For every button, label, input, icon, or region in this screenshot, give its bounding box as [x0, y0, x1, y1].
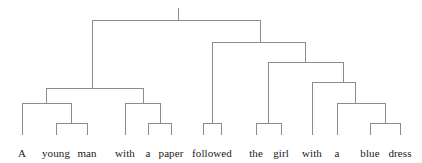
pp-with-dress-bracket	[312, 82, 355, 135]
np-blue-dress-bracket	[337, 103, 385, 135]
np-subject-bracket	[46, 88, 143, 103]
pp-with-paper-bracket	[125, 103, 160, 135]
followed-stub-bracket	[203, 123, 221, 135]
leaf-word-w6[interactable]: paper	[159, 147, 184, 159]
leaf-word-w1[interactable]: A	[18, 147, 26, 159]
leaf-word-w9[interactable]: girl	[273, 147, 289, 159]
a-paper-bracket	[148, 123, 171, 135]
leaf-word-w12[interactable]: blue	[360, 147, 379, 159]
leaf-word-w10[interactable]: with	[302, 147, 322, 159]
leaf-word-w2[interactable]: young	[42, 147, 70, 159]
leaf-word-w8[interactable]: the	[249, 147, 263, 159]
tree-line-group	[22, 8, 400, 135]
leaf-word-w13[interactable]: dress	[388, 147, 411, 159]
leaf-word-w4[interactable]: with	[115, 147, 135, 159]
the-girl-bracket	[256, 123, 281, 135]
leaf-word-w11[interactable]: a	[335, 147, 340, 159]
leaf-word-w7[interactable]: followed	[192, 147, 232, 159]
vp-bracket	[212, 42, 305, 123]
parse-tree-canvas	[0, 0, 422, 163]
leaf-word-w3[interactable]: man	[77, 147, 96, 159]
young-man-bracket	[56, 123, 87, 135]
parse-tree-figure: Ayoungmanwithapaperfollowedthegirlwithab…	[0, 0, 422, 163]
np-core-bracket	[22, 103, 71, 135]
blue-dress-bracket	[370, 123, 400, 135]
np-object-bracket	[268, 62, 343, 123]
root-bracket	[92, 20, 260, 88]
leaf-word-w5[interactable]: a	[146, 147, 151, 159]
